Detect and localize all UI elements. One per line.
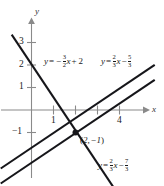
line-graph-figure: x y 1 4 3 2 1 −1 y=−32x+2 y=23x−53 y=23x… (0, 0, 164, 186)
plot-canvas (0, 0, 164, 186)
y-tick-label-minus-1: −1 (12, 127, 22, 137)
point-y-value: −1 (91, 135, 102, 145)
x-axis-arrow-icon (143, 107, 150, 114)
eq1-constant: 2 (78, 56, 85, 66)
y-tick-label-2: 2 (19, 60, 24, 70)
intersection-point-label: (2, −1) (80, 136, 104, 145)
x-tick-label-1: 1 (51, 116, 56, 126)
y-axis-label: y (35, 7, 39, 16)
equation-label-line-1: y=−32x+2 (44, 54, 84, 69)
eq2-minus: − (120, 56, 127, 66)
eq1-plus: + (70, 56, 77, 66)
eq2-constant-numerator: 5 (128, 54, 131, 61)
eq3-equals: = (102, 160, 109, 170)
x-tick-label-4: 4 (117, 116, 122, 126)
eq2-constant-denominator: 3 (128, 61, 131, 69)
eq2-equals: = (105, 56, 112, 66)
eq2-constant-fraction: 53 (127, 54, 131, 69)
point-close-paren: ) (101, 135, 104, 145)
eq3-constant-fraction: 73 (124, 158, 128, 173)
eq3-constant-numerator: 7 (125, 158, 128, 165)
equation-label-line-2: y=23x−53 (101, 54, 132, 69)
y-tick-label-3: 3 (19, 37, 24, 47)
y-tick-label-1: 1 (19, 82, 24, 92)
equation-label-line-3: y=23x−73 (98, 158, 129, 173)
eq3-minus: − (117, 160, 124, 170)
eq1-sign: − (55, 56, 62, 66)
x-axis-label: x (152, 105, 156, 114)
eq3-constant-denominator: 3 (125, 165, 128, 173)
intersection-point-dot (73, 130, 79, 136)
y-axis-arrow-icon (28, 18, 35, 25)
